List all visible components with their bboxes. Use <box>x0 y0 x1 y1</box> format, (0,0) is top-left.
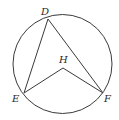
segment-hf <box>63 68 103 93</box>
geometry-figure: D E F H <box>0 0 119 120</box>
figure-svg: D E F H <box>0 0 119 120</box>
label-d: D <box>40 6 49 17</box>
segment-de <box>24 19 48 93</box>
label-e: E <box>11 93 20 104</box>
segment-he <box>24 68 63 93</box>
segment-df <box>48 19 103 93</box>
label-f: F <box>103 93 112 104</box>
label-h: H <box>58 54 68 65</box>
